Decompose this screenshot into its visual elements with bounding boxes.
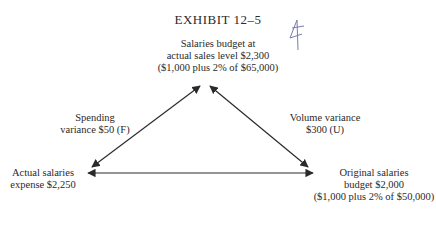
node-right: Original salaries budget $2,000 ($1,000 … bbox=[312, 167, 436, 203]
edge-right-label: Volume variance $300 (U) bbox=[270, 112, 380, 136]
node-left: Actual salaries expense $2,250 bbox=[0, 167, 86, 191]
node-left-line2: expense $2,250 bbox=[0, 179, 86, 191]
edge-left-line1: Spending bbox=[40, 112, 150, 124]
edge-left-label: Spending variance $50 (F) bbox=[40, 112, 150, 136]
node-top-line2: actual sales level $2,300 bbox=[130, 50, 306, 62]
edge-right-line2: $300 (U) bbox=[270, 124, 380, 136]
edge-left-line2: variance $50 (F) bbox=[40, 124, 150, 136]
edge-right-line1: Volume variance bbox=[270, 112, 380, 124]
node-top: Salaries budget at actual sales level $2… bbox=[130, 38, 306, 74]
node-right-line3: ($1,000 plus 2% of $50,000) bbox=[312, 191, 436, 203]
node-top-line3: ($1,000 plus 2% of $65,000) bbox=[130, 62, 306, 74]
node-left-line1: Actual salaries bbox=[0, 167, 86, 179]
node-top-line1: Salaries budget at bbox=[130, 38, 306, 50]
node-right-line1: Original salaries bbox=[312, 167, 436, 179]
node-right-line2: budget $2,000 bbox=[312, 179, 436, 191]
